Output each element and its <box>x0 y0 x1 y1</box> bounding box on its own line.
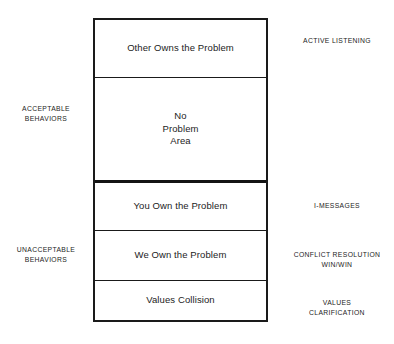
zone-we-own-the-problem: We Own the Problem <box>95 231 266 281</box>
zone-other-owns-the-problem: Other Owns the Problem <box>95 20 266 78</box>
label-active-listening: ACTIVE LISTENING <box>283 36 391 46</box>
zone-label-we-own-the-problem: We Own the Problem <box>135 249 227 262</box>
label-conflict-resolution: CONFLICT RESOLUTION WIN/WIN <box>283 250 391 269</box>
zone-label-other-owns-the-problem: Other Owns the Problem <box>127 42 234 55</box>
behavior-window-diagram: Other Owns the Problem No Problem Area Y… <box>93 18 268 322</box>
zone-label-values-collision: Values Collision <box>146 294 215 307</box>
label-unacceptable-behaviors: UNACCEPTABLE BEHAVIORS <box>2 245 90 264</box>
zone-no-problem-area: No Problem Area <box>95 78 266 183</box>
zone-label-no-problem-area: No Problem Area <box>162 110 198 148</box>
zone-label-you-own-the-problem: You Own the Problem <box>134 200 228 213</box>
zone-you-own-the-problem: You Own the Problem <box>95 183 266 231</box>
label-acceptable-behaviors: ACCEPTABLE BEHAVIORS <box>2 104 90 123</box>
zone-values-collision: Values Collision <box>95 281 266 320</box>
label-values-clarification: VALUES CLARIFICATION <box>283 298 391 317</box>
label-i-messages: I-MESSAGES <box>283 201 391 211</box>
